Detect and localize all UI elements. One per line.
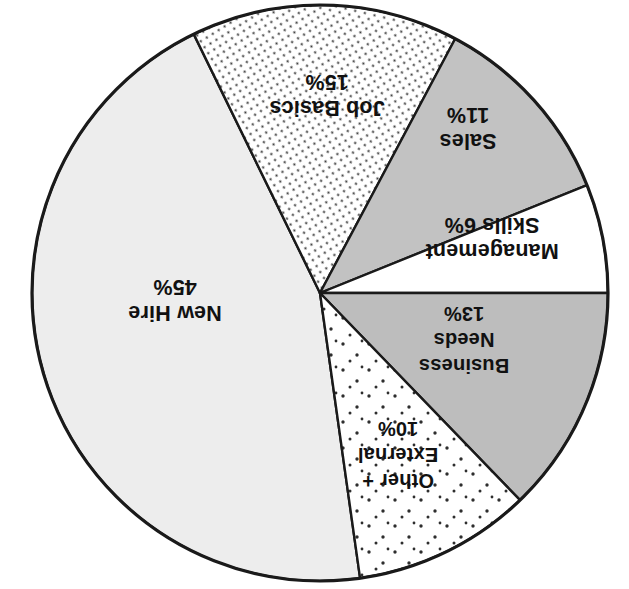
pie-chart-figure: New Hire45%Job Basics15%Sales11%Manageme… (0, 0, 629, 589)
label-line: New Hire (128, 301, 222, 325)
label-line: External (358, 444, 439, 466)
label-line: 45% (153, 275, 197, 299)
label-line: 13% (444, 303, 485, 325)
label-line: Business (419, 355, 510, 377)
label-line: 15% (305, 70, 349, 94)
label-line: Management (425, 239, 558, 263)
label-line: Other + (362, 470, 434, 492)
pie-chart-canvas: New Hire45%Job Basics15%Sales11%Manageme… (0, 0, 629, 589)
label-line: Skills 6% (444, 213, 539, 237)
label-line: Needs (433, 329, 494, 351)
label-line: 11% (447, 103, 489, 127)
label-line: 10% (378, 418, 419, 440)
label-line: Sales (439, 129, 496, 153)
label-line: Job Basics (269, 96, 385, 120)
